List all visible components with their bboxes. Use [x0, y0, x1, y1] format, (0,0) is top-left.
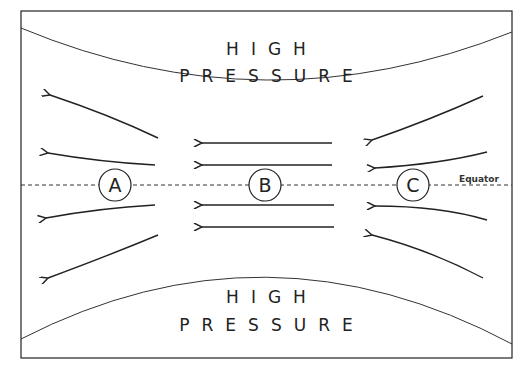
equator-label: Equator	[459, 174, 500, 184]
arrows-region-c	[372, 96, 487, 278]
point-c: C	[397, 169, 429, 201]
wind-diagram: A B C Equator HIGH PRESSURE HIGH PRESSUR…	[0, 0, 523, 370]
top-label-pressure: PRESSURE	[179, 66, 364, 86]
svg-text:C: C	[406, 174, 419, 196]
svg-text:A: A	[109, 174, 122, 196]
bottom-label-pressure: PRESSURE	[179, 315, 364, 335]
point-b: B	[249, 169, 281, 201]
top-label-high: HIGH	[226, 39, 318, 59]
bottom-label-high: HIGH	[226, 287, 318, 307]
point-a: A	[99, 169, 131, 201]
svg-text:B: B	[258, 174, 271, 196]
